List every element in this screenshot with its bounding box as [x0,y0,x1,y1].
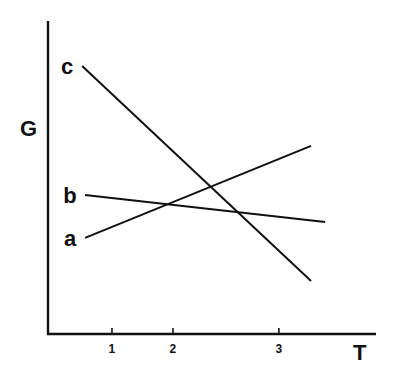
y-axis-label: G [20,116,37,141]
series-label-a: a [64,226,77,251]
series-line-b [85,195,325,222]
x-tick-label: 3 [276,342,283,356]
series-label-c: c [61,54,73,79]
series-line-a [85,146,311,238]
series-label-b: b [63,183,76,208]
x-axis-label: T [353,340,367,365]
x-ticks: 123 [109,328,283,356]
x-tick-label: 1 [109,342,116,356]
series-group: abc [61,54,325,281]
x-tick-label: 2 [170,342,177,356]
series-line-c [82,66,311,281]
chart: G T 123 abc [0,0,396,379]
